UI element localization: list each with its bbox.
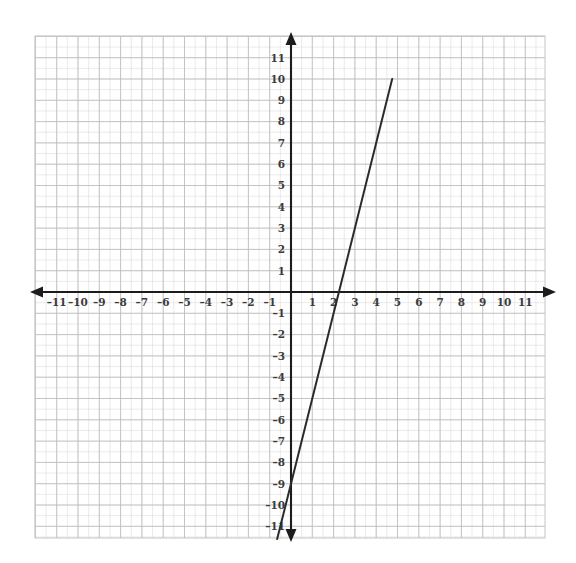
y-tick-label: 2 <box>278 243 285 255</box>
y-tick-label: –4 <box>272 371 285 383</box>
x-tick-label: –8 <box>114 296 127 308</box>
x-tick-label: 6 <box>415 296 422 308</box>
y-tick-label: 8 <box>278 115 285 127</box>
x-tick-label: –7 <box>136 296 149 308</box>
x-tick-label: 8 <box>458 296 465 308</box>
y-tick-label: 6 <box>278 158 285 170</box>
x-tick-label: 3 <box>351 296 358 308</box>
x-tick-label: –10 <box>68 296 88 308</box>
x-tick-label: –2 <box>242 296 255 308</box>
coordinate-graph: –11–10–9–8–7–6–5–4–3–2–11234567891011 11… <box>0 0 576 563</box>
y-tick-label: –5 <box>272 392 285 404</box>
y-tick-label: 3 <box>278 222 285 234</box>
y-tick-label: –2 <box>272 328 285 340</box>
y-tick-label: 7 <box>278 137 285 149</box>
y-tick-label: –3 <box>272 350 285 362</box>
coordinate-plane-svg: –11–10–9–8–7–6–5–4–3–2–11234567891011 11… <box>0 0 576 563</box>
y-tick-label: 11 <box>270 52 285 64</box>
y-tick-label: –9 <box>272 478 285 490</box>
y-tick-label: 1 <box>278 265 285 277</box>
x-tick-label: –6 <box>157 296 170 308</box>
x-tick-label: –5 <box>178 296 191 308</box>
x-tick-label: 10 <box>497 296 512 308</box>
y-tick-label: 9 <box>278 94 285 106</box>
x-tick-label: –9 <box>93 296 106 308</box>
x-tick-label: 1 <box>309 296 316 308</box>
x-tick-label: 4 <box>373 296 380 308</box>
x-tick-label: 7 <box>436 296 443 308</box>
x-tick-label: 11 <box>518 296 533 308</box>
y-tick-label: –7 <box>272 435 285 447</box>
y-tick-label: –10 <box>265 499 285 511</box>
y-tick-label: –8 <box>272 456 285 468</box>
y-tick-label: –6 <box>272 414 285 426</box>
x-tick-label: 5 <box>394 296 401 308</box>
x-tick-label: –11 <box>47 296 67 308</box>
x-tick-label: –1 <box>263 296 276 308</box>
x-tick-label: 9 <box>479 296 486 308</box>
y-tick-label: 10 <box>270 73 285 85</box>
y-tick-label: 5 <box>278 179 285 191</box>
x-tick-label: –3 <box>221 296 234 308</box>
x-tick-label: –4 <box>200 296 213 308</box>
y-tick-label: 4 <box>278 201 285 213</box>
y-tick-label: –1 <box>272 307 285 319</box>
